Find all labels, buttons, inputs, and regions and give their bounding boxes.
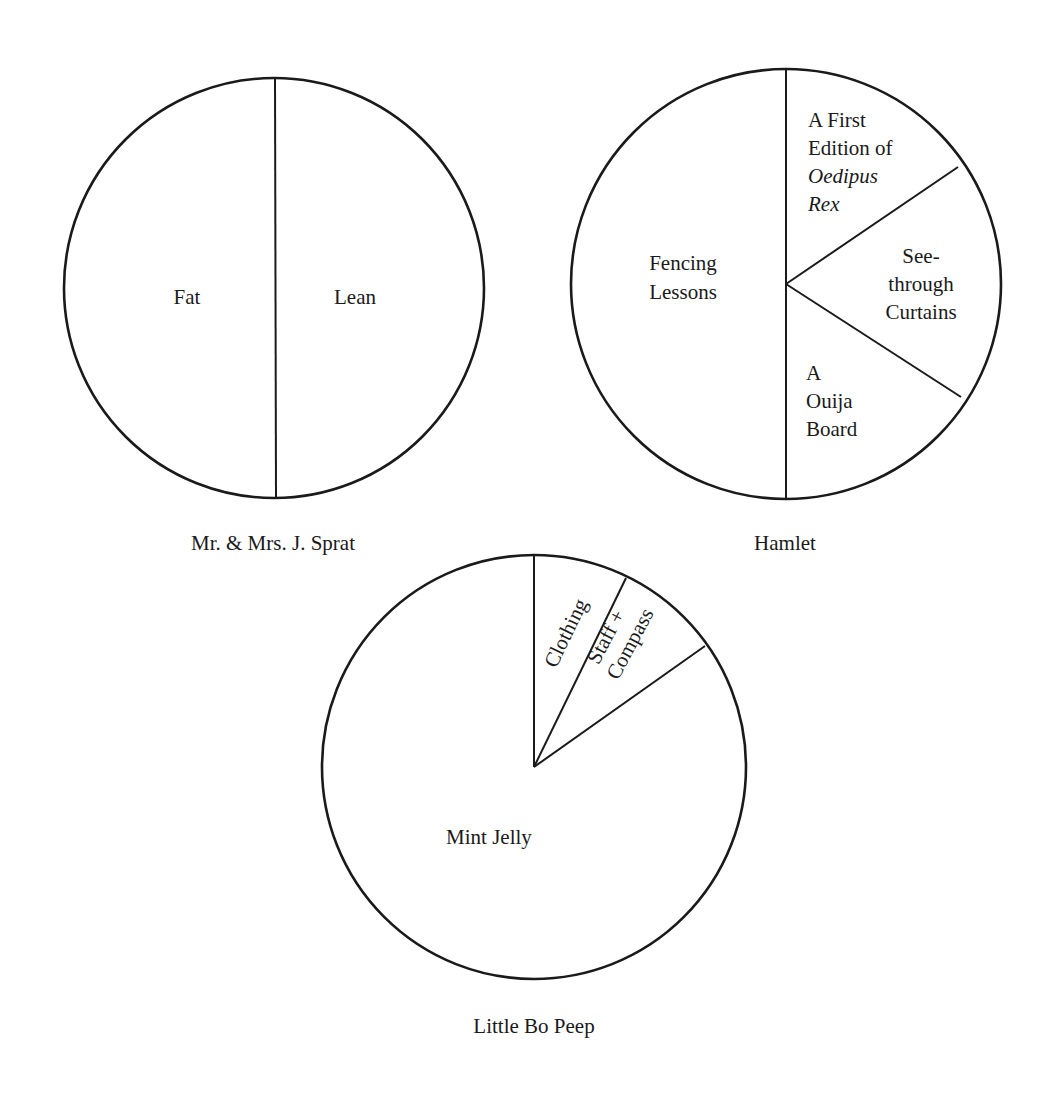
slice-label-lean: Lean xyxy=(334,285,376,309)
chart-caption: Mr. & Mrs. J. Sprat xyxy=(191,531,355,555)
slice-label-fencing: Fencing Lessons xyxy=(649,251,717,304)
slice-label-mint-jelly: Mint Jelly xyxy=(446,825,532,849)
slice-label-ouija: A Ouija Board xyxy=(806,361,858,441)
label-line-italic: Rex xyxy=(807,192,840,216)
pie-chart-hamlet: A First Edition of Oedipus Rex See- thro… xyxy=(571,69,1001,555)
label-line: Fencing xyxy=(649,251,717,275)
label-line: through xyxy=(888,272,954,296)
label-line: Lessons xyxy=(649,280,717,304)
slice-divider xyxy=(275,78,276,498)
label-line: A xyxy=(806,361,822,385)
slice-label-fat: Fat xyxy=(174,285,201,309)
chart-caption: Little Bo Peep xyxy=(473,1014,594,1038)
charts-canvas: Fat Lean Mr. & Mrs. J. Sprat A First Edi… xyxy=(0,0,1055,1101)
label-line: See- xyxy=(902,244,939,268)
chart-caption: Hamlet xyxy=(754,531,816,555)
label-line: A First xyxy=(808,108,866,132)
label-line-italic: Oedipus xyxy=(808,164,878,188)
pie-outline xyxy=(64,78,484,498)
slice-label-staff-compass: Staff + Compass xyxy=(582,604,659,683)
slice-label-oedipus: A First Edition of Oedipus Rex xyxy=(807,108,893,216)
slice-label-curtains: See- through Curtains xyxy=(885,244,956,324)
label-line: Board xyxy=(806,417,858,441)
pie-chart-sprat: Fat Lean Mr. & Mrs. J. Sprat xyxy=(64,78,484,555)
label-line: Curtains xyxy=(885,300,956,324)
slice-label-clothing: Clothing xyxy=(539,594,593,671)
label-line: Ouija xyxy=(806,389,853,413)
label-line: Edition of xyxy=(808,136,893,160)
pie-chart-bopeep: Clothing Staff + Compass Mint Jelly Litt… xyxy=(322,555,746,1038)
